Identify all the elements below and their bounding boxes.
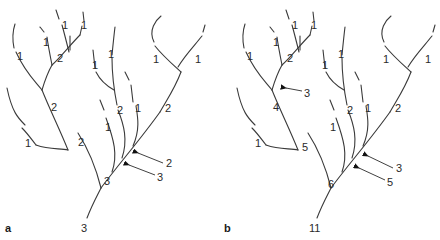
panel-label-a: a <box>5 222 12 234</box>
arrow-b-2 <box>359 168 385 180</box>
label-a-mid-5: 1 <box>105 121 111 133</box>
label-b-left-trunk: 5 <box>302 141 308 153</box>
label-b-mid-1: 1 <box>322 59 328 71</box>
label-b-mid-2: 1 <box>338 48 344 60</box>
label-a-tip-3: 1 <box>62 19 68 31</box>
label-b-tip-1: 1 <box>247 50 253 62</box>
label-b-ul-trunk: 4 <box>273 101 279 113</box>
label-a-right-1: 1 <box>153 53 159 65</box>
panel-b-upper-arrow: 3 <box>286 87 310 99</box>
label-b-mid-4: 1 <box>365 102 371 114</box>
label-a-left-1: 1 <box>25 137 31 149</box>
label-b-main-trunk: 6 <box>328 178 334 190</box>
arrow-b-1 <box>368 156 393 168</box>
label-a-mid-4: 1 <box>135 102 141 114</box>
label-a-arrow-1: 2 <box>166 157 172 169</box>
label-a-mid-3: 2 <box>117 104 123 116</box>
label-a-outlet: 3 <box>81 222 87 234</box>
label-a-tip-4: 1 <box>81 19 87 31</box>
label-b-arrow-2: 5 <box>387 176 393 188</box>
label-b-ul-junction: 2 <box>287 52 293 64</box>
label-b-arrow-1: 3 <box>396 162 402 174</box>
label-b-tip-4: 1 <box>311 19 317 31</box>
label-a-tip-1: 1 <box>17 50 23 62</box>
panel-b-labels: 1 1 1 1 2 4 1 5 1 1 2 1 1 1 1 2 6 11 3 5… <box>224 19 431 234</box>
label-b-outlet: 11 <box>309 222 320 234</box>
panel-b-tree <box>237 10 435 218</box>
label-a-mid-2: 1 <box>108 48 114 60</box>
panel-a-labels: 1 1 1 1 2 2 1 2 1 1 2 1 1 1 1 2 3 3 2 3 … <box>5 19 201 234</box>
label-a-ul-trunk: 2 <box>51 101 57 113</box>
label-b-tip-3: 1 <box>292 19 298 31</box>
label-a-right-junction: 2 <box>165 102 171 114</box>
label-a-arrow-2: 3 <box>157 171 163 183</box>
label-b-arrow-upper: 3 <box>304 87 310 99</box>
label-b-right-junction: 2 <box>395 102 401 114</box>
label-a-tip-2: 1 <box>43 36 49 48</box>
label-b-tip-2: 1 <box>273 36 279 48</box>
arrow-b-upper <box>286 88 302 91</box>
label-b-left-1: 1 <box>255 137 261 149</box>
label-b-right-1: 1 <box>383 53 389 65</box>
outlet-segment <box>87 188 101 218</box>
label-a-ul-junction: 2 <box>57 52 63 64</box>
panel-label-b: b <box>224 222 231 234</box>
label-a-mid-1: 1 <box>92 59 98 71</box>
label-a-right-2: 1 <box>195 53 201 65</box>
label-a-main-trunk: 3 <box>104 175 110 187</box>
arrow-a-2 <box>129 165 155 175</box>
label-a-left-trunk: 2 <box>78 136 84 148</box>
arrow-a-1 <box>138 153 163 163</box>
label-b-right-2: 1 <box>425 53 431 65</box>
stream-order-figure: 1 1 1 1 2 2 1 2 1 1 2 1 1 1 1 2 3 3 2 3 … <box>0 0 440 240</box>
label-b-mid-3: 2 <box>347 104 353 116</box>
label-b-mid-5: 1 <box>330 121 336 133</box>
